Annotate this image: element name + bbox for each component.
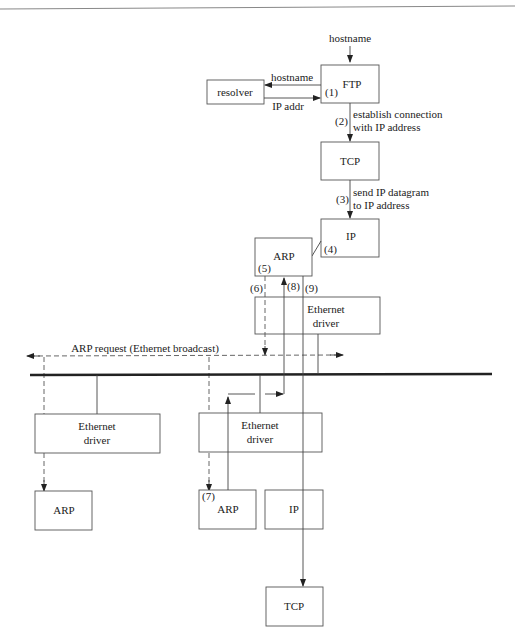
ethernet-cable	[30, 374, 492, 375]
svg-text:Ethernet: Ethernet	[307, 303, 344, 315]
step-4-label: (4)	[324, 243, 337, 256]
broadcast-dashed-line	[30, 355, 340, 356]
svg-text:ARP: ARP	[217, 503, 238, 515]
svg-text:Ethernet: Ethernet	[78, 420, 115, 432]
step-9-label: (9)	[305, 282, 318, 295]
arp-operation-diagram: hostname FTP (1) resolver hostname IP ad…	[0, 0, 515, 633]
step-2-label: (2)	[335, 115, 348, 128]
broadcast-label: ARP request (Ethernet broadcast)	[71, 342, 219, 355]
step-2-text-line-1: establish connection	[353, 108, 443, 120]
step-6-label: (6)	[250, 282, 263, 295]
tcp-box-target-host: TCP	[266, 587, 323, 626]
svg-text:TCP: TCP	[284, 600, 304, 612]
page-rule	[0, 6, 515, 9]
hostname-input-label: hostname	[329, 32, 371, 44]
tcp-box-sender: TCP	[321, 142, 379, 180]
svg-text:driver: driver	[313, 317, 340, 329]
ip-addr-label: IP addr	[272, 100, 304, 112]
ip-arp-link	[312, 241, 321, 256]
arp-box-left-host: ARP	[35, 491, 92, 530]
ethernet-driver-left-host: Ethernet driver	[35, 414, 160, 453]
ethernet-driver-sender: Ethernet driver	[255, 297, 380, 334]
svg-text:driver: driver	[84, 434, 111, 446]
svg-text:IP: IP	[346, 230, 356, 242]
step-8-label: (8)	[287, 280, 300, 293]
ethernet-driver-target-host: Ethernet driver	[199, 413, 322, 452]
step-1-label: (1)	[325, 86, 338, 99]
svg-text:TCP: TCP	[340, 155, 360, 167]
step-7-label: (7)	[202, 490, 215, 503]
step-3-label: (3)	[336, 193, 349, 206]
svg-text:IP: IP	[289, 503, 299, 515]
step-5-label: (5)	[258, 262, 271, 275]
ip-box-target-host: IP	[265, 490, 323, 529]
step-3-text-line-1: send IP datagram	[353, 186, 429, 198]
hostname-query-label: hostname	[271, 71, 313, 83]
step-3-text-line-2: to IP address	[353, 199, 409, 211]
svg-text:resolver: resolver	[217, 86, 253, 98]
svg-text:ARP: ARP	[53, 504, 74, 516]
svg-text:FTP: FTP	[343, 78, 362, 90]
svg-text:ARP: ARP	[273, 250, 294, 262]
resolver-box: resolver	[207, 80, 264, 104]
step-2-text-line-2: with IP address	[353, 121, 420, 133]
svg-text:Ethernet: Ethernet	[241, 419, 278, 431]
svg-text:driver: driver	[247, 433, 274, 445]
